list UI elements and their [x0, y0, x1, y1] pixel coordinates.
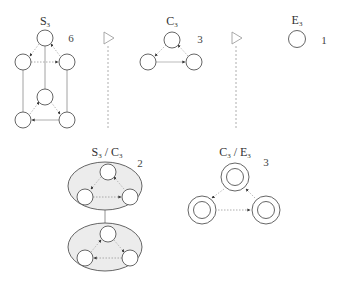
node: [140, 54, 156, 70]
node: [164, 32, 180, 48]
node: [100, 164, 116, 180]
arrow-edge: [51, 102, 60, 114]
node: [122, 189, 138, 205]
node: [37, 89, 53, 105]
node: [59, 112, 75, 128]
node: [15, 54, 31, 70]
arrow-edge: [212, 189, 224, 198]
node: [289, 31, 306, 48]
e3-label: E3: [292, 14, 303, 28]
e3-graph: [289, 31, 306, 48]
c3-label: C3: [166, 15, 178, 29]
node: [186, 54, 202, 70]
diagram-canvas: [0, 0, 340, 281]
c3-e3-graph: [188, 163, 280, 224]
ring-node-inner: [194, 202, 211, 219]
arrow-edge: [30, 44, 39, 56]
node: [100, 226, 116, 242]
s3-label: S3: [40, 15, 50, 29]
node: [59, 54, 75, 70]
s3-c3-graph: [68, 162, 142, 271]
node: [122, 250, 138, 266]
e3-count: 1: [321, 35, 327, 46]
arrow-edge: [178, 45, 188, 56]
c3-graph: [140, 32, 202, 70]
triangle-right-icon: [104, 32, 114, 130]
s3-c3-label: S3 / C3: [91, 146, 122, 160]
c3-e3-count: 3: [263, 157, 269, 168]
node: [37, 30, 53, 46]
s3-graph: [15, 30, 75, 128]
ring-node-inner: [258, 202, 275, 219]
arrow-edge: [30, 102, 39, 114]
s3-c3-count: 2: [137, 158, 143, 169]
node: [77, 250, 93, 266]
arrow-edge: [246, 189, 255, 198]
arrow-edge: [155, 45, 166, 56]
triangle-right-icon: [232, 32, 242, 130]
node: [77, 189, 93, 205]
c3-count: 3: [197, 34, 203, 45]
arrow-edge: [51, 44, 60, 56]
s3-count: 6: [68, 33, 74, 44]
ring-node-inner: [227, 169, 244, 186]
node: [15, 112, 31, 128]
c3-e3-label: C3 / E3: [219, 146, 251, 160]
